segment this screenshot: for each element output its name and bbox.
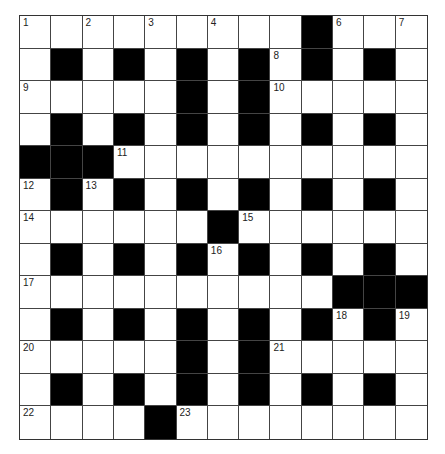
answer-cell[interactable]: [270, 309, 301, 342]
answer-cell[interactable]: [51, 406, 82, 439]
answer-cell[interactable]: [364, 341, 395, 374]
answer-cell[interactable]: [239, 276, 270, 309]
answer-cell[interactable]: [333, 244, 364, 277]
answer-cell[interactable]: [270, 374, 301, 407]
answer-cell[interactable]: [333, 81, 364, 114]
answer-cell[interactable]: 4: [208, 16, 239, 49]
answer-cell[interactable]: [396, 146, 427, 179]
answer-cell[interactable]: [145, 146, 176, 179]
answer-cell[interactable]: [302, 276, 333, 309]
answer-cell[interactable]: [333, 114, 364, 147]
answer-cell[interactable]: [208, 179, 239, 212]
answer-cell[interactable]: 16: [208, 244, 239, 277]
answer-cell[interactable]: [270, 16, 301, 49]
answer-cell[interactable]: [364, 406, 395, 439]
answer-cell[interactable]: 8: [270, 49, 301, 82]
answer-cell[interactable]: [83, 309, 114, 342]
answer-cell[interactable]: [396, 49, 427, 82]
answer-cell[interactable]: [396, 406, 427, 439]
answer-cell[interactable]: [145, 309, 176, 342]
answer-cell[interactable]: [333, 146, 364, 179]
answer-cell[interactable]: [302, 81, 333, 114]
answer-cell[interactable]: [333, 374, 364, 407]
answer-cell[interactable]: [208, 146, 239, 179]
answer-cell[interactable]: [83, 211, 114, 244]
answer-cell[interactable]: [145, 81, 176, 114]
answer-cell[interactable]: 3: [145, 16, 176, 49]
answer-cell[interactable]: 20: [20, 341, 51, 374]
answer-cell[interactable]: [51, 341, 82, 374]
answer-cell[interactable]: [51, 211, 82, 244]
answer-cell[interactable]: [51, 81, 82, 114]
answer-cell[interactable]: [145, 49, 176, 82]
answer-cell[interactable]: [20, 114, 51, 147]
answer-cell[interactable]: [333, 49, 364, 82]
answer-cell[interactable]: [396, 114, 427, 147]
answer-cell[interactable]: [396, 374, 427, 407]
answer-cell[interactable]: [20, 49, 51, 82]
answer-cell[interactable]: [20, 309, 51, 342]
answer-cell[interactable]: [302, 406, 333, 439]
answer-cell[interactable]: [239, 16, 270, 49]
answer-cell[interactable]: [270, 179, 301, 212]
answer-cell[interactable]: [270, 146, 301, 179]
answer-cell[interactable]: [364, 81, 395, 114]
answer-cell[interactable]: 6: [333, 16, 364, 49]
answer-cell[interactable]: [270, 114, 301, 147]
answer-cell[interactable]: [208, 276, 239, 309]
answer-cell[interactable]: [208, 341, 239, 374]
answer-cell[interactable]: [51, 276, 82, 309]
answer-cell[interactable]: 15: [239, 211, 270, 244]
answer-cell[interactable]: [114, 276, 145, 309]
answer-cell[interactable]: 13: [83, 179, 114, 212]
answer-cell[interactable]: [83, 406, 114, 439]
answer-cell[interactable]: [114, 81, 145, 114]
answer-cell[interactable]: [208, 406, 239, 439]
answer-cell[interactable]: [208, 49, 239, 82]
answer-cell[interactable]: [364, 16, 395, 49]
answer-cell[interactable]: [83, 374, 114, 407]
answer-cell[interactable]: [239, 406, 270, 439]
answer-cell[interactable]: [83, 276, 114, 309]
answer-cell[interactable]: [364, 146, 395, 179]
answer-cell[interactable]: [208, 114, 239, 147]
answer-cell[interactable]: [396, 211, 427, 244]
answer-cell[interactable]: [114, 406, 145, 439]
answer-cell[interactable]: [51, 16, 82, 49]
answer-cell[interactable]: [302, 146, 333, 179]
answer-cell[interactable]: [270, 406, 301, 439]
answer-cell[interactable]: [20, 244, 51, 277]
answer-cell[interactable]: [333, 211, 364, 244]
answer-cell[interactable]: [83, 49, 114, 82]
answer-cell[interactable]: [145, 244, 176, 277]
answer-cell[interactable]: [145, 276, 176, 309]
answer-cell[interactable]: [208, 309, 239, 342]
answer-cell[interactable]: [83, 244, 114, 277]
answer-cell[interactable]: [208, 374, 239, 407]
answer-cell[interactable]: 21: [270, 341, 301, 374]
answer-cell[interactable]: 12: [20, 179, 51, 212]
answer-cell[interactable]: [114, 211, 145, 244]
answer-cell[interactable]: [145, 374, 176, 407]
answer-cell[interactable]: 19: [396, 309, 427, 342]
answer-cell[interactable]: [20, 374, 51, 407]
answer-cell[interactable]: [177, 146, 208, 179]
answer-cell[interactable]: [270, 276, 301, 309]
answer-cell[interactable]: [333, 406, 364, 439]
answer-cell[interactable]: [333, 341, 364, 374]
answer-cell[interactable]: 7: [396, 16, 427, 49]
answer-cell[interactable]: [114, 341, 145, 374]
answer-cell[interactable]: 9: [20, 81, 51, 114]
answer-cell[interactable]: [239, 146, 270, 179]
answer-cell[interactable]: [396, 179, 427, 212]
answer-cell[interactable]: [177, 211, 208, 244]
answer-cell[interactable]: 1: [20, 16, 51, 49]
answer-cell[interactable]: 18: [333, 309, 364, 342]
answer-cell[interactable]: [83, 114, 114, 147]
answer-cell[interactable]: [396, 244, 427, 277]
answer-cell[interactable]: [302, 211, 333, 244]
answer-cell[interactable]: [114, 16, 145, 49]
answer-cell[interactable]: [145, 211, 176, 244]
answer-cell[interactable]: [145, 114, 176, 147]
answer-cell[interactable]: [145, 179, 176, 212]
